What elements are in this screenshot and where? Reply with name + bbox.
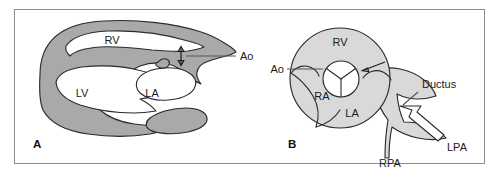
panel-a-label-lv: LV (76, 87, 89, 99)
anatomy-illustration: RV LV LA Ao A (0, 0, 500, 175)
panel-b-label-lpa: LPA (447, 141, 468, 153)
panel-b-label-ductus: Ductus (422, 78, 457, 90)
panel-a-lower-crescent (146, 108, 207, 134)
panel-a-letter: A (33, 138, 41, 150)
panel-b-group: RV Ao RA LA Ductus RPA LPA B (271, 28, 468, 169)
panel-b-label-la: LA (345, 107, 359, 119)
panel-b-label-ao: Ao (271, 63, 284, 75)
panel-a-label-rv: RV (104, 34, 120, 46)
panel-a-group: RV LV LA Ao A (33, 21, 253, 150)
panel-a-label-ao: Ao (240, 50, 253, 62)
panel-a-label-la: LA (145, 87, 159, 99)
panel-b-label-rv: RV (332, 36, 348, 48)
panel-b-label-ra: RA (314, 90, 330, 102)
figure-root: RV LV LA Ao A (0, 0, 500, 175)
panel-b-label-rpa: RPA (379, 157, 401, 169)
panel-b-letter: B (288, 138, 296, 150)
